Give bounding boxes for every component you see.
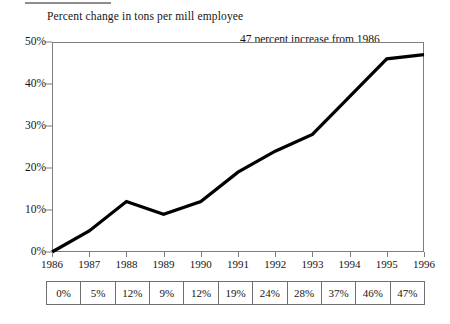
top-rule-divider <box>25 2 111 4</box>
x-tick-mark <box>238 252 239 257</box>
x-tick-label: 1988 <box>115 258 137 270</box>
x-tick-mark <box>387 252 388 257</box>
table-cell: 19% <box>218 282 252 305</box>
x-axis-labels: 1986198719881989199019911992199319941995… <box>52 258 424 274</box>
x-tick-label: 1994 <box>339 258 361 270</box>
x-tick-label: 1996 <box>413 258 435 270</box>
data-polyline <box>52 55 424 252</box>
table-cell: 24% <box>253 282 287 305</box>
table-cell: 5% <box>81 282 115 305</box>
x-tick-label: 1995 <box>376 258 398 270</box>
x-tick-mark <box>164 252 165 257</box>
x-tick-label: 1992 <box>264 258 286 270</box>
x-tick-label: 1989 <box>153 258 175 270</box>
table-cell: 0% <box>47 282 81 305</box>
x-tick-mark <box>52 252 53 257</box>
x-tick-mark <box>312 252 313 257</box>
table-cell: 28% <box>287 282 321 305</box>
x-tick-mark <box>201 252 202 257</box>
x-tick-mark <box>275 252 276 257</box>
x-tick-label: 1987 <box>78 258 100 270</box>
x-tick-label: 1991 <box>227 258 249 270</box>
x-tick-mark <box>126 252 127 257</box>
table-cell: 9% <box>150 282 184 305</box>
table-cell: 12% <box>115 282 149 305</box>
chart-figure: Percent change in tons per mill employee… <box>0 0 450 324</box>
x-tick-label: 1986 <box>41 258 63 270</box>
x-tick-mark <box>424 252 425 257</box>
x-tick-mark <box>350 252 351 257</box>
data-value-table: 0%5%12%9%12%19%24%28%37%46%47% <box>46 281 425 305</box>
chart-title: Percent change in tons per mill employee <box>47 10 243 22</box>
table-cell: 46% <box>356 282 390 305</box>
table-cell: 47% <box>390 282 424 305</box>
data-series-line <box>52 42 424 252</box>
x-tick-label: 1990 <box>190 258 212 270</box>
x-tick-label: 1993 <box>301 258 323 270</box>
table-cell: 12% <box>184 282 218 305</box>
table-cell: 37% <box>321 282 355 305</box>
table-row: 0%5%12%9%12%19%24%28%37%46%47% <box>47 282 425 305</box>
y-axis-ticks <box>0 42 52 252</box>
x-tick-mark <box>89 252 90 257</box>
